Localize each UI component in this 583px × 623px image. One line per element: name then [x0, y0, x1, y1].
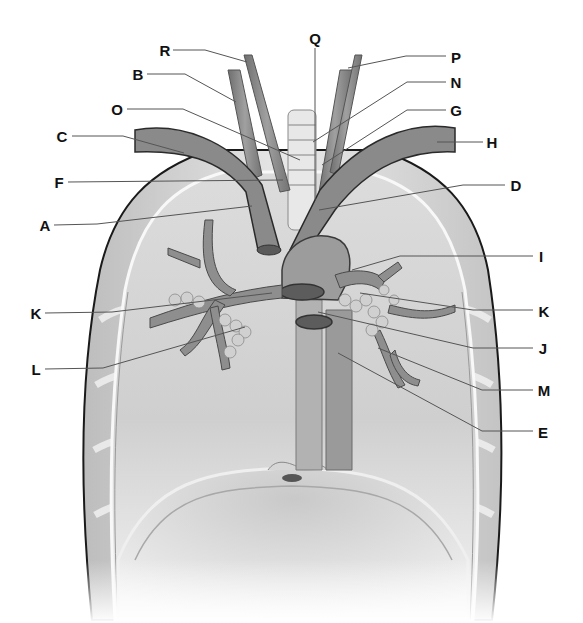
label-m[interactable]: M	[538, 383, 551, 398]
label-o[interactable]: O	[111, 102, 123, 117]
label-i[interactable]: I	[539, 249, 543, 264]
label-a[interactable]: A	[40, 218, 51, 233]
label-k_right[interactable]: K	[539, 304, 550, 319]
aorta-cut	[280, 284, 324, 300]
label-p[interactable]: P	[451, 50, 461, 65]
thorax-anatomy-diagram	[0, 0, 583, 623]
label-n[interactable]: N	[451, 75, 462, 90]
label-k_left[interactable]: K	[31, 306, 42, 321]
label-g[interactable]: G	[450, 103, 462, 118]
leader-line-p	[348, 56, 446, 68]
label-r[interactable]: R	[160, 43, 171, 58]
label-e[interactable]: E	[538, 425, 548, 440]
label-b[interactable]: B	[133, 67, 144, 82]
label-h[interactable]: H	[487, 135, 498, 150]
pulmonary-trunk-cut	[296, 315, 332, 329]
label-c[interactable]: C	[57, 129, 68, 144]
label-l[interactable]: L	[31, 362, 40, 377]
label-q[interactable]: Q	[309, 31, 321, 46]
label-j[interactable]: J	[539, 341, 547, 356]
leader-line-r	[173, 50, 247, 62]
descending-aorta	[326, 310, 352, 470]
label-f[interactable]: F	[54, 175, 63, 190]
leader-line-b	[147, 74, 236, 102]
label-d[interactable]: D	[511, 178, 522, 193]
